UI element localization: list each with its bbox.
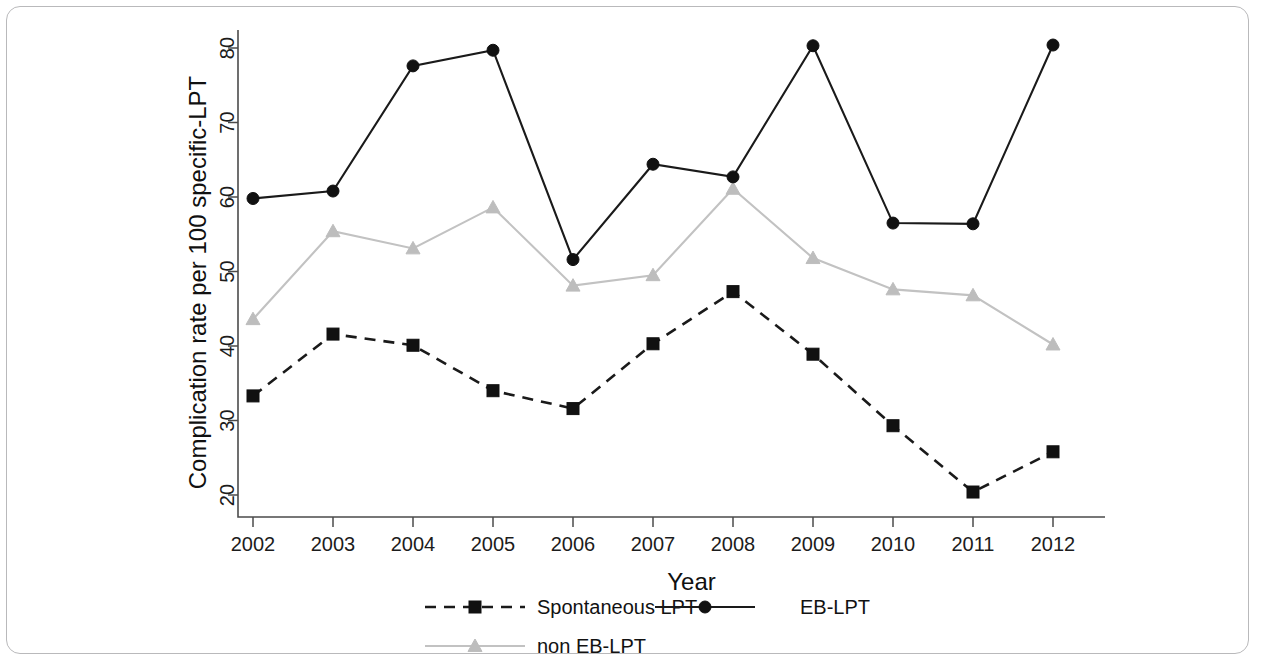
data-point-marker <box>886 282 900 294</box>
series-line <box>253 45 1053 260</box>
legend-marker <box>699 601 711 613</box>
axes-group: 2030405060708020022003200420052006200720… <box>184 30 1105 595</box>
y-tick-label: 20 <box>216 484 238 506</box>
y-tick-label: 30 <box>216 409 238 431</box>
data-point-marker <box>1047 446 1059 458</box>
x-tick-label: 2012 <box>1031 533 1076 555</box>
data-point-marker <box>247 192 259 204</box>
data-point-marker <box>647 338 659 350</box>
data-point-marker <box>967 218 979 230</box>
x-tick-label: 2010 <box>871 533 916 555</box>
x-tick-label: 2003 <box>311 533 356 555</box>
x-axis-title: Year <box>667 568 716 595</box>
legend-label: EB-LPT <box>800 596 870 618</box>
data-point-marker <box>726 182 740 194</box>
x-tick-label: 2006 <box>551 533 596 555</box>
data-point-marker <box>1046 338 1060 350</box>
data-point-marker <box>327 185 339 197</box>
x-tick-label: 2005 <box>471 533 516 555</box>
x-tick-label: 2009 <box>791 533 836 555</box>
y-axis-title: Complication rate per 100 specific-LPT <box>184 75 211 489</box>
y-tick-label: 60 <box>216 186 238 208</box>
chart-legend: Spontaneous LPTEB-LPTnon EB-LPT <box>425 596 870 657</box>
x-tick-label: 2004 <box>391 533 436 555</box>
data-point-marker <box>567 403 579 415</box>
x-tick-label: 2008 <box>711 533 756 555</box>
data-point-marker <box>807 348 819 360</box>
data-point-marker <box>727 286 739 298</box>
data-point-marker <box>647 158 659 170</box>
series-non-eb-lpt <box>246 182 1060 350</box>
data-point-marker <box>727 171 739 183</box>
y-tick-label: 70 <box>216 111 238 133</box>
x-tick-label: 2007 <box>631 533 676 555</box>
data-point-marker <box>487 385 499 397</box>
data-point-marker <box>1047 39 1059 51</box>
data-point-marker <box>327 328 339 340</box>
legend-marker <box>469 601 481 613</box>
data-point-marker <box>486 200 500 212</box>
legend-label: non EB-LPT <box>537 635 646 657</box>
data-point-marker <box>967 486 979 498</box>
data-point-marker <box>887 217 899 229</box>
x-tick-label: 2011 <box>951 533 994 555</box>
axis-lines <box>238 30 1105 517</box>
data-point-marker <box>487 44 499 56</box>
data-point-marker <box>807 40 819 52</box>
y-tick-label: 40 <box>216 335 238 357</box>
data-point-marker <box>247 390 259 402</box>
chart-figure: 2030405060708020022003200420052006200720… <box>0 0 1263 662</box>
x-tick-label: 2002 <box>231 533 276 555</box>
series-spontaneous-lpt <box>247 286 1059 498</box>
series-eb-lpt <box>247 39 1059 266</box>
data-point-marker <box>407 60 419 72</box>
data-point-marker <box>407 339 419 351</box>
line-chart-canvas: 2030405060708020022003200420052006200720… <box>0 0 1263 662</box>
data-point-marker <box>887 420 899 432</box>
series-line <box>253 292 1053 492</box>
data-point-marker <box>326 224 340 236</box>
data-point-marker <box>567 254 579 266</box>
legend-item[interactable]: non EB-LPT <box>425 635 646 657</box>
y-tick-label: 50 <box>216 260 238 282</box>
series-line <box>253 189 1053 345</box>
y-tick-label: 80 <box>216 37 238 59</box>
